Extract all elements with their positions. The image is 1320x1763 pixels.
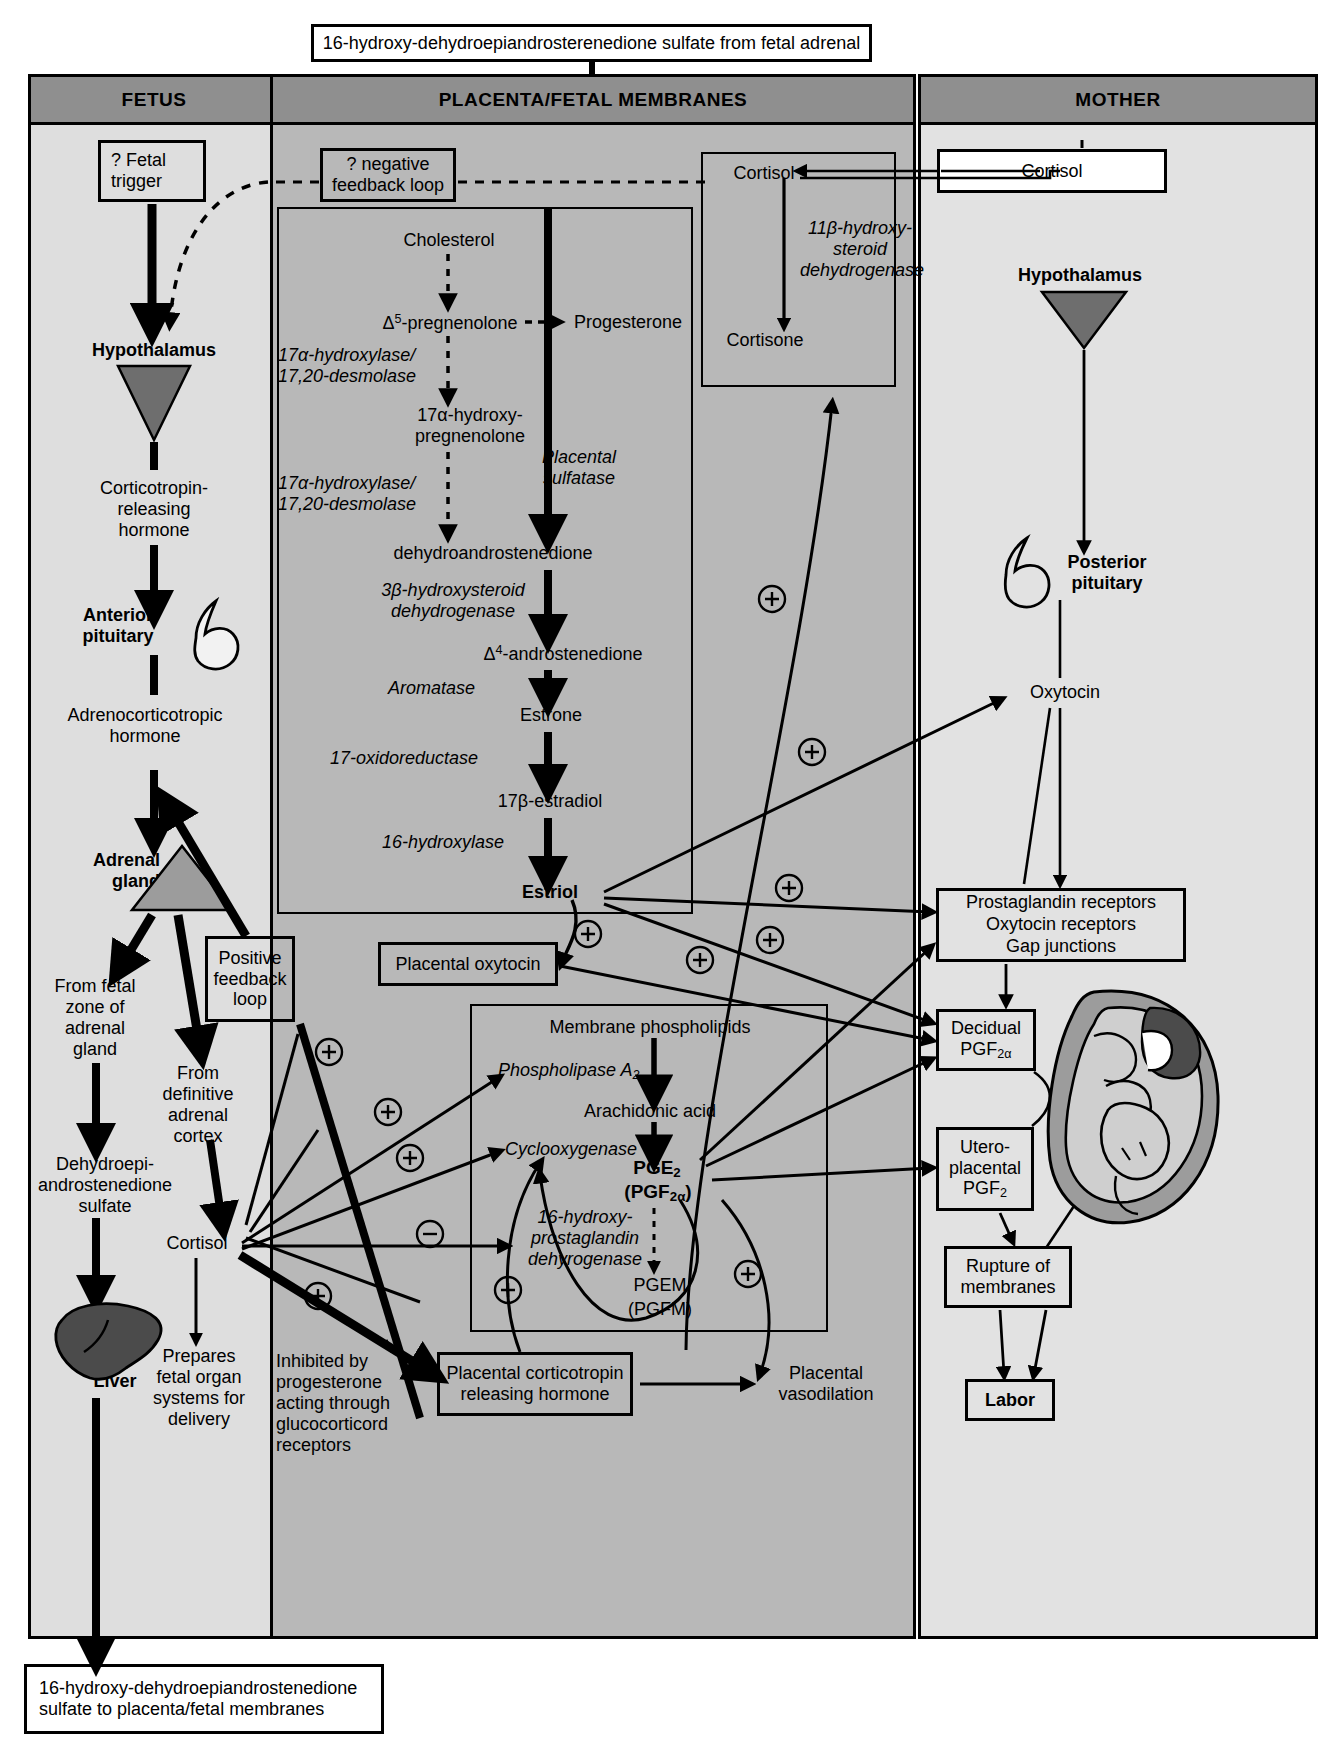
- estriol-label: Estriol: [500, 882, 600, 903]
- uteroplacental-pgf2-box: Utero- placental PGF2: [936, 1127, 1034, 1211]
- diagram-canvas: 16-hydroxy-dehydroepiandrosterenedione s…: [0, 0, 1320, 1763]
- dehydroandrostenedione-label: dehydroandrostenedione: [343, 543, 643, 564]
- arachidonic-acid-label: Arachidonic acid: [550, 1101, 750, 1122]
- column-fetus-header: FETUS: [31, 77, 277, 125]
- fetus-fetal-zone-label: From fetal zone of adrenal gland: [40, 976, 150, 1060]
- fetus-cortisol-label: Cortisol: [154, 1233, 240, 1254]
- column-placenta-header: PLACENTA/FETAL MEMBRANES: [273, 77, 913, 125]
- positive-feedback-label: Positive feedback loop: [213, 948, 286, 1010]
- uteroplacental-pgf2-label: Utero- placental PGF2: [949, 1137, 1021, 1201]
- fetus-definitive-cortex-label: From definitive adrenal cortex: [148, 1063, 248, 1147]
- labor-box: Labor: [965, 1379, 1055, 1421]
- placental-cortisol-label: Cortisol: [714, 163, 814, 184]
- mother-receptors-box: Prostaglandin receptors Oxytocin recepto…: [936, 888, 1186, 962]
- 17b-estradiol-label: 17β-estradiol: [480, 791, 620, 812]
- 17-oxidoreductase-label: 17-oxidoreductase: [330, 748, 520, 769]
- placental-crh-box: Placental corticotropin releasing hormon…: [437, 1352, 633, 1416]
- placental-sulfatase-label: Placental sulfatase: [524, 447, 634, 489]
- title-text: 16-hydroxy-dehydroepiandrosterenedione s…: [323, 33, 860, 54]
- phospholipase-a2-label: Phospholipase A2: [498, 1060, 688, 1083]
- mother-receptors-label: Prostaglandin receptors Oxytocin recepto…: [966, 892, 1156, 958]
- mother-hypothalamus-label: Hypothalamus: [1000, 265, 1160, 286]
- fetus-adrenal-gland-label: Adrenal gland: [50, 850, 160, 892]
- d4-androstenedione-label: Δ4-androstenedione: [443, 643, 683, 665]
- placental-crh-label: Placental corticotropin releasing hormon…: [446, 1363, 623, 1404]
- d5-pregnenolone-label: Δ5-pregnenolone: [355, 312, 545, 334]
- fetus-anterior-pituitary-label: Anterior pituitary: [58, 605, 178, 647]
- negative-feedback-box: ? negative feedback loop: [320, 148, 456, 202]
- negative-feedback-label: ? negative feedback loop: [332, 154, 444, 195]
- 11b-hydroxysteroid-dehydrogenase-label: 11β-hydroxy- steroid dehydrogenase: [800, 218, 920, 281]
- 16-hydroxylase-label: 16-hydroxylase: [382, 832, 532, 853]
- aromatase-label: Aromatase: [388, 678, 518, 699]
- pgem-label: PGEM: [605, 1275, 715, 1296]
- labor-label: Labor: [985, 1390, 1035, 1411]
- placental-oxytocin-box: Placental oxytocin: [378, 942, 558, 986]
- uterus-label: Uterus: [1048, 1157, 1158, 1178]
- placental-vasodilation-label: Placental vasodilation: [756, 1363, 896, 1405]
- cortisone-label: Cortisone: [710, 330, 820, 351]
- rupture-label: Rupture of membranes: [960, 1256, 1055, 1297]
- fetus-bottom-output-box: 16-hydroxy-dehydroepiandrostenedione sul…: [24, 1664, 384, 1734]
- 17a-hydroxypregnenolone-label: 17α-hydroxy- pregnenolone: [380, 405, 560, 447]
- fetus-liver-label: Liver: [75, 1371, 155, 1392]
- decidual-pgf2a-box: Decidual PGF2α: [936, 1009, 1036, 1071]
- progesterone-label: Progesterone: [563, 312, 693, 333]
- enzyme-17a-hydroxylase-2-label: 17α-hydroxylase/ 17,20-desmolase: [278, 473, 453, 515]
- title-box: 16-hydroxy-dehydroepiandrosterenedione s…: [311, 24, 872, 62]
- pgf2a-label: (PGF2α): [603, 1181, 713, 1205]
- fetal-trigger-label: ? Fetal trigger: [111, 150, 166, 191]
- 16-hydroxyprostaglandin-dehydrogenase-label: 16-hydroxy- prostaglandin dehyrogenase: [512, 1207, 658, 1270]
- enzyme-17a-hydroxylase-1-label: 17α-hydroxylase/ 17,20-desmolase: [278, 345, 453, 387]
- fetus-acth-label: Adrenocorticotropic hormone: [40, 705, 250, 747]
- fetus-hypothalamus-label: Hypothalamus: [79, 340, 229, 361]
- estrone-label: Estrone: [486, 705, 616, 726]
- mother-cortisol-label: Cortisol: [1021, 161, 1082, 182]
- decidual-pgf2a-label: Decidual PGF2α: [951, 1018, 1021, 1061]
- membrane-phospholipids-label: Membrane phospholipids: [520, 1017, 780, 1038]
- pge2-label: PGE2: [607, 1157, 707, 1181]
- enzyme-3b-hydroxysteroid-label: 3β-hydroxysteroid dehydrogenase: [353, 580, 553, 622]
- inhibited-by-label: Inhibited by progesterone acting through…: [276, 1351, 428, 1455]
- fetus-dheas-label: Dehydroepi- androstenedione sulfate: [32, 1154, 178, 1217]
- fetus-prepares-label: Prepares fetal organ systems for deliver…: [147, 1346, 251, 1430]
- fetus-crh-label: Corticotropin- releasing hormone: [69, 478, 239, 541]
- fetus-bottom-output-label: 16-hydroxy-dehydroepiandrostenedione sul…: [39, 1678, 357, 1719]
- mother-cortisol-box: Cortisol: [937, 149, 1167, 193]
- positive-feedback-box: Positive feedback loop: [205, 936, 295, 1022]
- rupture-of-membranes-box: Rupture of membranes: [944, 1246, 1072, 1308]
- mother-posterior-pituitary-label: Posterior pituitary: [1042, 552, 1172, 594]
- fetal-trigger-box: ? Fetal trigger: [98, 140, 206, 202]
- pgfm-label: (PGFM): [605, 1299, 715, 1320]
- cholesterol-label: Cholesterol: [389, 230, 509, 251]
- mother-oxytocin-label: Oxytocin: [1000, 682, 1130, 703]
- column-mother-header: MOTHER: [921, 77, 1315, 125]
- placental-oxytocin-label: Placental oxytocin: [395, 954, 540, 975]
